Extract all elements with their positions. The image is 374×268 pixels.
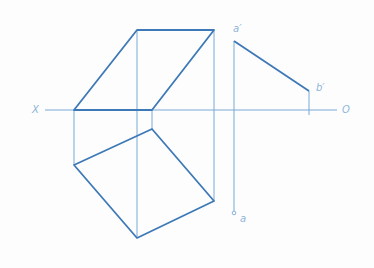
axis-label-o: O	[342, 105, 350, 115]
label-b-prime: b′	[316, 83, 325, 93]
label-a: a	[240, 214, 246, 224]
top-view-plane	[74, 129, 214, 238]
label-a-prime: a′	[233, 24, 241, 34]
line-a-prime-b-prime	[234, 41, 309, 91]
front-view-plane	[74, 30, 214, 110]
axis-label-x: X	[32, 105, 39, 115]
point-a	[232, 211, 236, 215]
descriptive-geometry-figure: X O a′ b′ a	[0, 0, 374, 268]
drawing	[0, 0, 374, 268]
